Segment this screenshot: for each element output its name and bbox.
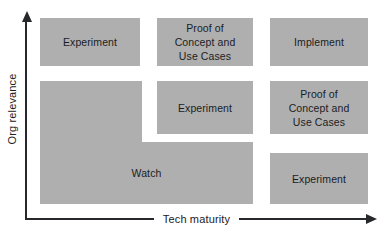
y-axis-label: Org relevance [6, 73, 18, 144]
matrix-cell-label: Proof of Concept and Use Cases [171, 21, 240, 63]
y-axis-title-container: Org relevance [0, 0, 24, 218]
matrix-cell-watch-lshape: Watch [40, 81, 253, 204]
matrix-cell-label: Proof of Concept and Use Cases [285, 87, 354, 129]
matrix-cell-watch-label-container: Watch [40, 142, 253, 204]
matrix-cell-top-center: Proof of Concept and Use Cases [157, 18, 253, 66]
matrix-diagram-canvas: Org relevance Tech maturity Experiment P… [0, 0, 389, 235]
matrix-cell-label: Watch [128, 166, 166, 180]
x-axis-label: Tech maturity [154, 213, 239, 225]
y-axis-line [25, 20, 27, 220]
matrix-cell-label: Experiment [59, 35, 121, 49]
matrix-cell-top-left: Experiment [40, 18, 140, 66]
matrix-cell-label: Implement [290, 35, 348, 49]
matrix-cell-top-right: Implement [270, 18, 368, 66]
matrix-cell-middle-right: Proof of Concept and Use Cases [270, 81, 368, 134]
matrix-cell-label: Experiment [288, 172, 350, 186]
x-axis-title-container: Tech maturity [25, 206, 368, 231]
matrix-cell-bottom-right: Experiment [270, 153, 368, 204]
